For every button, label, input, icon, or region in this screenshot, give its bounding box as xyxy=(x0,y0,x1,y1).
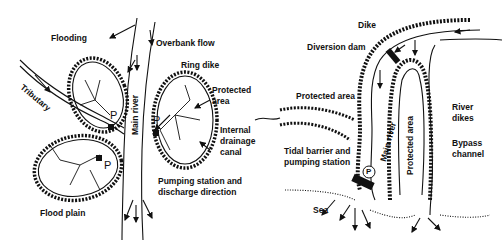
label-protected-2: area xyxy=(212,96,230,106)
label-bypass-1: Bypass xyxy=(452,138,482,148)
label-bypass-2: channel xyxy=(452,149,484,159)
label-dike: Dike xyxy=(358,20,376,30)
label-sea: Sea xyxy=(313,205,328,215)
label-main-river-left: Main river xyxy=(130,95,140,135)
label-river-dikes-2: dikes xyxy=(452,113,474,123)
label-tidal-1: Tidal barrier and xyxy=(284,146,350,156)
label-pumping-2: discharge direction xyxy=(158,187,236,197)
tidal-pump-marker: P xyxy=(366,167,371,177)
pump-marker-3: P xyxy=(104,160,111,170)
label-overbank-flow: Overbank flow xyxy=(156,38,215,48)
label-internal-3: canal xyxy=(220,147,242,157)
right-diagram xyxy=(255,20,502,232)
label-protected-area-right: Protected area xyxy=(296,91,355,101)
label-tidal-2: pumping station xyxy=(284,157,350,167)
pump-marker-1: P xyxy=(110,110,117,120)
label-protected-1: Protected xyxy=(212,85,251,95)
label-protected-area-vertical: Protected area xyxy=(405,116,415,175)
pump-marker-2: P xyxy=(153,115,160,125)
label-flood-plain: Flood plain xyxy=(40,208,85,218)
left-diagram xyxy=(20,18,217,240)
label-river-dikes-1: River xyxy=(452,102,473,112)
label-flooding: Flooding xyxy=(51,33,87,43)
label-diversion-dam: Diversion dam xyxy=(307,42,366,52)
label-internal-1: Internal xyxy=(220,125,251,135)
label-ring-dike: Ring dike xyxy=(181,60,219,70)
label-internal-2: drainage xyxy=(220,136,255,146)
label-pumping-1: Pumping station and xyxy=(158,176,242,186)
